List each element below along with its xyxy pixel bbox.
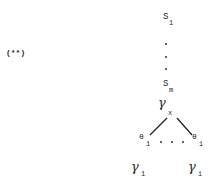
theta-i-base: θ — [192, 133, 197, 141]
tree-branches — [0, 0, 213, 186]
theta-1-base: θ — [139, 133, 144, 141]
gamma-i-base: γ — [188, 160, 196, 173]
gamma-i-sub: i — [198, 171, 202, 178]
theta-i-sub: i — [199, 141, 203, 148]
gamma-1-base: γ — [131, 160, 139, 173]
gamma-1-sub: 1 — [141, 171, 145, 178]
theta-1-sub: 1 — [146, 141, 150, 148]
